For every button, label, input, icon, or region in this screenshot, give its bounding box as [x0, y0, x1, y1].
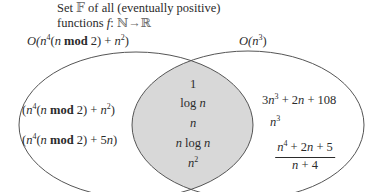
right-item-3-fraction: n4 + 2n + 5 n + 4 — [275, 140, 335, 173]
expr-part: ) — [113, 133, 117, 147]
diagram-title-line2: functions f: ℕ→ℝ — [57, 16, 151, 31]
exponent: 3 — [275, 92, 279, 101]
exponent: 4 — [32, 132, 36, 141]
exponent: 2 — [194, 155, 198, 164]
expr-part: + 2 — [279, 93, 299, 107]
reals-symbol: ℝ — [141, 16, 151, 30]
intersection-item-5: n2 — [188, 156, 198, 172]
fraction-denominator: n + 4 — [275, 158, 335, 173]
expr-part: 1 — [190, 77, 196, 91]
title-text: functions — [57, 16, 107, 30]
expr-part: + 2 — [287, 140, 307, 154]
expr-part: n — [199, 96, 205, 110]
venn-diagram: Set 𝔽 of all (eventually positive) funct… — [0, 0, 382, 192]
right-item-2: n3 — [270, 115, 280, 131]
expr-part: n — [204, 136, 210, 150]
intersection-item-2: log n — [180, 96, 205, 110]
mod-operator: mod — [47, 133, 74, 147]
arrow-icon: → — [128, 16, 141, 30]
expr-part: ) — [111, 103, 115, 117]
exponent: 4 — [283, 139, 287, 148]
fraction-numerator: n4 + 2n + 5 — [275, 140, 335, 158]
expr-part: n — [268, 93, 274, 107]
expr-part: log — [182, 136, 204, 150]
diagram-title-line1: Set 𝔽 of all (eventually positive) — [57, 1, 220, 16]
expr-part: 2) + 5 — [74, 133, 107, 147]
label-part: O( — [239, 34, 252, 48]
left-item-1: (n4(n mod 2) + n2) — [22, 103, 115, 119]
expr-part: log — [180, 96, 199, 110]
label-part: O( — [27, 34, 40, 48]
exponent: 4 — [46, 33, 50, 42]
exponent: 3 — [276, 114, 280, 123]
expr-part: 2) + — [74, 103, 101, 117]
left-item-2: (n4(n mod 2) + 5n) — [22, 133, 117, 149]
intersection-item-1: 1 — [190, 77, 196, 91]
label-part: ) — [125, 34, 129, 48]
mod-operator: mod — [47, 103, 74, 117]
title-text: Set — [57, 1, 76, 15]
family-symbol: 𝔽 — [76, 1, 85, 15]
title-text: of all (eventually positive) — [85, 1, 220, 15]
expr-part: n — [100, 103, 106, 117]
expr-part: + 5 — [313, 140, 333, 154]
right-item-1: 3n3 + 2n + 108 — [262, 93, 336, 109]
intersection-item-4: n log n — [176, 136, 211, 150]
expr-part: n — [190, 116, 196, 130]
exponent: 2 — [107, 102, 111, 111]
label-part: n — [114, 34, 120, 48]
left-set-label: O(n4(n mod 2) + n2) — [27, 34, 129, 50]
naturals-symbol: ℕ — [117, 16, 128, 30]
expr-part: + 4 — [298, 158, 318, 172]
expr-part: + 108 — [304, 93, 336, 107]
label-part: ) — [262, 34, 266, 48]
label-part: 2) + — [88, 34, 115, 48]
exponent: 2 — [121, 33, 125, 42]
exponent: 3 — [258, 33, 262, 42]
mod-operator: mod — [61, 34, 88, 48]
intersection-item-3: n — [190, 116, 196, 130]
exponent: 4 — [32, 102, 36, 111]
colon: : — [110, 16, 117, 30]
right-set-label: O(n3) — [239, 34, 267, 50]
